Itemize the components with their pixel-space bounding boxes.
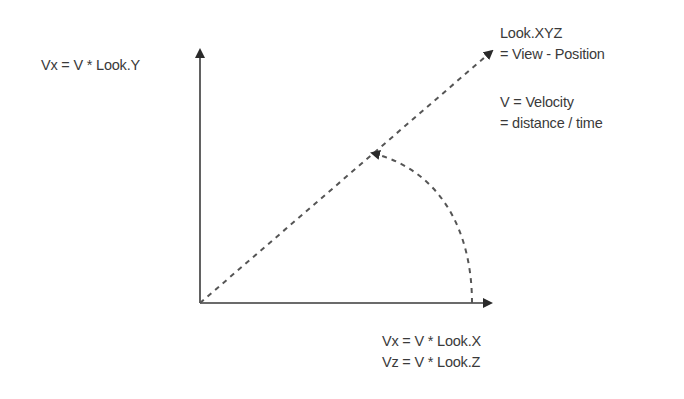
velocity-title: V = Velocity	[500, 93, 574, 112]
rotation-arc-arrow	[372, 153, 472, 303]
look-xyz-title: Look.XYZ	[500, 24, 562, 43]
x-axis-label-vz: Vz = V * Look.Z	[382, 353, 480, 372]
look-vector-arrow	[200, 51, 492, 303]
look-xyz-definition: = View - Position	[500, 45, 605, 64]
y-axis-label: Vx = V * Look.Y	[41, 56, 140, 75]
x-axis-label-vx: Vx = V * Look.X	[382, 332, 481, 351]
velocity-definition: = distance / time	[500, 114, 603, 133]
